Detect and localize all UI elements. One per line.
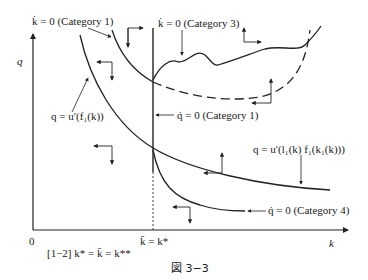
- kdot-cat3-curve: [153, 26, 321, 80]
- kdot-cat1-label: k̇ = 0 (Category 1): [32, 16, 113, 27]
- y-axis-label: q: [17, 56, 23, 67]
- qdot-cat4-label: q̇ = 0 (Category 4): [268, 205, 349, 216]
- x-axis-label: k: [329, 238, 334, 249]
- note-label: [1−2] k* = k̄ = k**: [47, 248, 131, 259]
- kdot-cat1-curve: [112, 30, 153, 82]
- q-uprime-f1-label: q = u′(f₁(k)): [51, 111, 104, 122]
- kdot-cat1-dashed: [153, 30, 310, 99]
- qdot-cat4-curve: [153, 150, 245, 211]
- kdot-cat3-label: k̇ = 0 (Category 3): [158, 18, 239, 29]
- kbar-marker-label: k̄ = k*: [140, 236, 168, 247]
- origin-label: 0: [29, 236, 35, 247]
- q-uprime-l1f1-label: q = u′(l₁(k) f₁(k₁(k))): [253, 144, 345, 155]
- phase-arrows: [94, 28, 271, 223]
- phase-diagram: [0, 0, 368, 280]
- qdot-cat1-label: q̇ = 0 (Category 1): [177, 110, 258, 121]
- figure-caption: 図 3−3: [171, 259, 209, 275]
